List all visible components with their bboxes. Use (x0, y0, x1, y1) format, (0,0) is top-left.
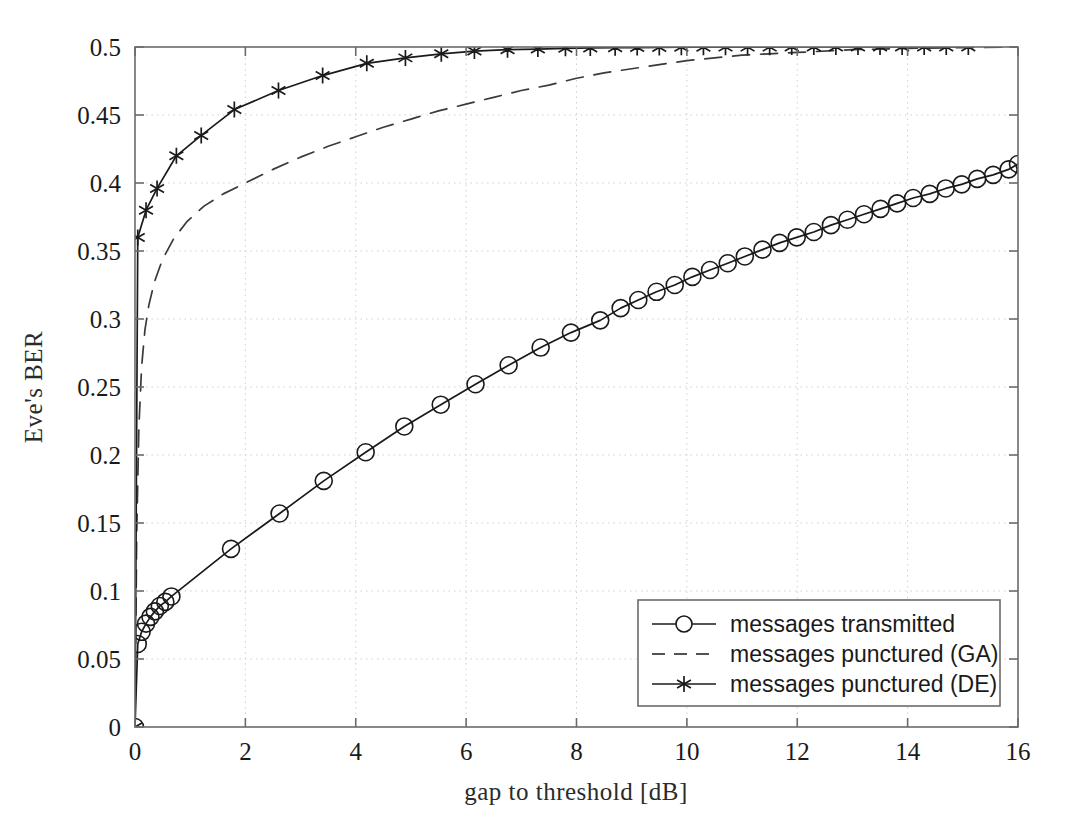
x-tick-label-0: 0 (129, 738, 142, 765)
x-axis-title: gap to threshold [dB] (464, 778, 688, 805)
legend-label-2: messages punctured (DE) (730, 671, 997, 697)
y-tick-label-3: 0.15 (77, 510, 121, 537)
chart-legend[interactable]: messages transmittedmessages punctured (… (638, 600, 1000, 706)
y-tick-label-7: 0.35 (77, 238, 121, 265)
chart-canvas: 0246810121416 00.050.10.150.20.250.30.35… (0, 0, 1067, 839)
chart-figure: 0246810121416 00.050.10.150.20.250.30.35… (0, 0, 1067, 839)
x-tick-label-2: 4 (350, 738, 363, 765)
y-tick-label-10: 0.5 (90, 34, 121, 61)
y-tick-label-4: 0.2 (90, 442, 121, 469)
x-tick-label-6: 12 (785, 738, 810, 765)
legend-marker-circle-icon (676, 616, 692, 632)
y-tick-label-2: 0.1 (90, 578, 121, 605)
x-tick-label-5: 10 (674, 738, 699, 765)
y-tick-label-0: 0 (109, 714, 122, 741)
x-tick-label-7: 14 (895, 738, 921, 765)
y-tick-label-6: 0.3 (90, 306, 121, 333)
x-tick-label-8: 16 (1006, 738, 1031, 765)
legend-label-1: messages punctured (GA) (730, 641, 998, 667)
x-tick-label-4: 8 (570, 738, 583, 765)
y-axis-title: Eve's BER (20, 331, 47, 443)
y-tick-label-8: 0.4 (90, 170, 122, 197)
legend-label-0: messages transmitted (730, 611, 955, 637)
y-tick-label-5: 0.25 (77, 374, 121, 401)
y-tick-label-1: 0.05 (77, 646, 121, 673)
y-tick-label-9: 0.45 (77, 102, 121, 129)
x-tick-label-3: 6 (460, 738, 473, 765)
x-tick-label-1: 2 (239, 738, 252, 765)
chart-background (0, 0, 1067, 839)
